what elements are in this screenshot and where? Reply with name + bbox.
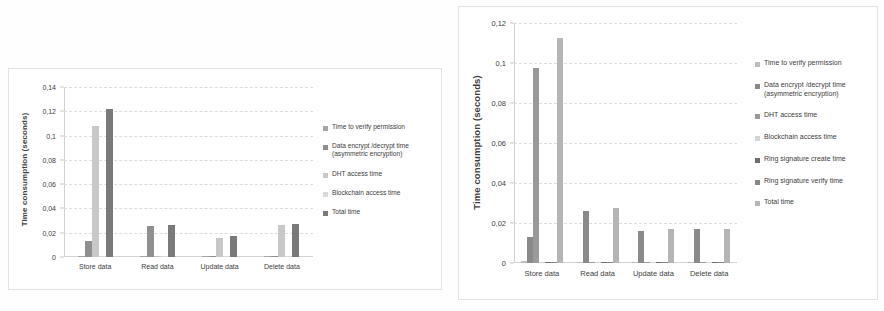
y-axis-tick-label: 0,08 — [491, 99, 506, 108]
legend-item-label: Total time — [764, 198, 794, 207]
legend-item-label: Blockchain access time — [764, 133, 837, 142]
left-legend: Time to verify permissionData encrypt /d… — [323, 123, 445, 227]
bar-group — [521, 23, 563, 263]
legend-item-label: DHT access time — [332, 170, 382, 178]
bar — [292, 224, 299, 257]
y-axis-tick-label: 0,06 — [42, 181, 56, 188]
y-tick-mark — [60, 159, 64, 160]
bar — [202, 256, 209, 257]
y-axis-tick-label: 0,12 — [491, 19, 506, 28]
bar — [223, 256, 230, 257]
bar — [557, 38, 563, 263]
left-y-axis-title: Time consumption (seconds) — [20, 100, 29, 240]
legend-swatch-icon — [755, 180, 760, 185]
legend-item-label: Data encrypt /decrypt time(asymmetric en… — [332, 142, 409, 158]
x-axis-tick-label: Store data — [79, 263, 111, 270]
bar — [78, 256, 85, 257]
legend-item: Total time — [323, 208, 445, 216]
bar — [99, 256, 106, 257]
legend-swatch-icon — [755, 84, 760, 89]
bar — [140, 256, 147, 257]
bar-group — [202, 87, 237, 257]
bar — [92, 126, 99, 257]
legend-item: DHT access time — [323, 170, 445, 178]
legend-swatch-icon — [755, 158, 760, 163]
legend-item-sublabel: (asymmetric encryption) — [764, 90, 846, 99]
right-legend: Time to verify permissionData encrypt /d… — [755, 59, 883, 220]
legend-swatch-icon — [323, 173, 328, 178]
y-axis-tick-label: 0,04 — [42, 205, 56, 212]
y-tick-mark — [510, 263, 514, 264]
legend-swatch-icon — [323, 211, 328, 216]
bar-group — [688, 23, 730, 263]
left-y-axis — [64, 87, 65, 257]
bar — [264, 256, 271, 257]
x-axis-tick-label: Update data — [633, 269, 674, 278]
bar — [533, 68, 539, 263]
x-axis-tick-label: Delete data — [264, 263, 300, 270]
legend-item: Time to verify permission — [755, 59, 883, 68]
y-tick-mark — [510, 223, 514, 224]
bar — [147, 226, 154, 257]
bar — [230, 236, 237, 257]
bar — [613, 208, 619, 263]
y-axis-tick-label: 0,04 — [491, 179, 506, 188]
bar — [271, 256, 278, 257]
y-tick-mark — [60, 87, 64, 88]
legend-swatch-icon — [323, 192, 328, 197]
bar-group — [577, 23, 619, 263]
bar — [668, 229, 674, 263]
bar — [168, 225, 175, 257]
y-tick-mark — [60, 208, 64, 209]
bar — [154, 256, 161, 257]
y-axis-tick-label: 0,14 — [42, 84, 56, 91]
legend-item-label: Ring signature verify time — [764, 177, 843, 186]
y-tick-mark — [510, 63, 514, 64]
right-plot-area: 00,020,040,060,080,10,12Store dataRead d… — [514, 23, 737, 263]
bar — [278, 225, 285, 257]
legend-swatch-icon — [755, 114, 760, 119]
legend-item: Blockchain access time — [755, 133, 883, 142]
y-tick-mark — [60, 232, 64, 233]
y-tick-mark — [60, 257, 64, 258]
right-bar-chart: Time consumption (seconds) 00,020,040,06… — [458, 6, 878, 300]
bar-group — [78, 87, 113, 257]
legend-swatch-icon — [323, 126, 328, 131]
bar — [638, 231, 644, 263]
legend-item-label: Ring signature create time — [764, 155, 846, 164]
legend-item: Ring signature verify time — [755, 177, 883, 186]
x-axis-tick-label: Update data — [201, 263, 239, 270]
legend-item-label: Data encrypt /decrypt time(asymmetric en… — [764, 81, 846, 99]
legend-item-sublabel: (asymmetric encryption) — [332, 150, 409, 158]
left-bar-chart: Time consumption (seconds) 00,020,040,06… — [8, 68, 442, 290]
bar — [85, 241, 92, 257]
y-axis-tick-label: 0 — [52, 254, 56, 261]
legend-item: DHT access time — [755, 111, 883, 120]
y-tick-mark — [510, 103, 514, 104]
bar — [209, 256, 216, 257]
y-tick-mark — [510, 23, 514, 24]
bar — [106, 109, 113, 257]
y-tick-mark — [60, 135, 64, 136]
x-axis-tick-label: Store data — [525, 269, 560, 278]
bar-group — [140, 87, 175, 257]
y-axis-tick-label: 0,12 — [42, 108, 56, 115]
legend-item: Ring signature create time — [755, 155, 883, 164]
y-tick-mark — [60, 111, 64, 112]
bar — [216, 238, 223, 257]
legend-item-label: Time to verify permission — [332, 123, 405, 131]
legend-item: Total time — [755, 198, 883, 207]
y-tick-mark — [60, 184, 64, 185]
y-tick-mark — [510, 183, 514, 184]
left-plot-area: 00,020,040,060,080,10,120,14Store dataRe… — [64, 87, 313, 257]
y-axis-tick-label: 0,02 — [42, 229, 56, 236]
bar-group — [264, 87, 299, 257]
legend-item-label: Total time — [332, 208, 360, 216]
bar — [285, 256, 292, 257]
legend-swatch-icon — [755, 201, 760, 206]
y-axis-tick-label: 0 — [502, 259, 506, 268]
y-tick-mark — [510, 143, 514, 144]
bar-group — [632, 23, 674, 263]
right-y-axis-title: Time consumption (seconds) — [471, 58, 482, 228]
legend-item: Data encrypt /decrypt time(asymmetric en… — [755, 81, 883, 99]
